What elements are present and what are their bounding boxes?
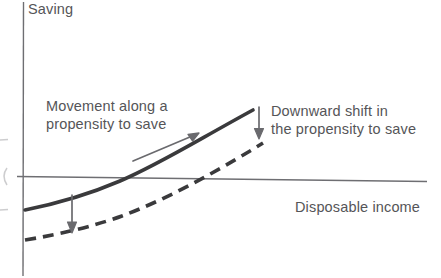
- y-axis-label: Saving: [28, 1, 73, 19]
- downward-shift-arrow-right: [255, 107, 264, 139]
- x-axis-label: Disposable income: [295, 199, 420, 217]
- diagram-canvas: [0, 0, 441, 278]
- dashed-saving-curve: [25, 143, 263, 240]
- annotation-shift-line2: the propensity to save: [271, 121, 416, 137]
- annotation-movement-line1: Movement along a: [46, 98, 168, 114]
- y-axis: [23, 2, 24, 276]
- x-axis: [17, 177, 427, 182]
- saving-propensity-diagram: Saving Movement along apropensity to sav…: [0, 0, 441, 278]
- annotation-downward-shift: Downward shift inthe propensity to save: [271, 103, 416, 138]
- axis-tick-marks: [0, 140, 8, 211]
- annotation-movement-line2: propensity to save: [46, 116, 166, 132]
- annotation-shift-line1: Downward shift in: [271, 103, 388, 119]
- annotation-movement-along: Movement along apropensity to save: [46, 98, 168, 133]
